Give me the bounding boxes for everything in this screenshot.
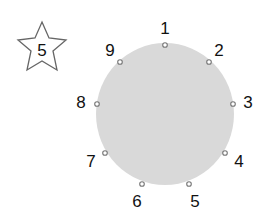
- point-marker: [223, 151, 228, 156]
- point-label: 4: [234, 152, 243, 171]
- point-marker: [231, 102, 236, 107]
- point-label: 3: [243, 93, 252, 112]
- point-label: 6: [132, 192, 141, 211]
- circle: [96, 43, 234, 185]
- point-marker: [103, 151, 108, 156]
- point-label: 9: [105, 41, 114, 60]
- point-marker: [187, 182, 192, 187]
- point-marker: [118, 60, 123, 65]
- point-marker: [95, 102, 100, 107]
- point-marker: [207, 60, 212, 65]
- diagram: 5 123456789: [0, 0, 266, 222]
- star-label: 5: [37, 41, 46, 60]
- point-label: 5: [190, 192, 199, 211]
- point-marker: [163, 43, 168, 48]
- point-marker: [140, 182, 145, 187]
- point-label: 7: [86, 152, 95, 171]
- point-label: 1: [160, 19, 169, 38]
- point-label: 2: [214, 41, 223, 60]
- point-label: 8: [76, 93, 85, 112]
